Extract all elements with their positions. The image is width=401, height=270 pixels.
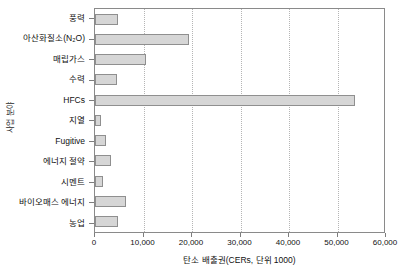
bar-row (95, 70, 384, 90)
category-label: 지열 (0, 110, 90, 130)
bar (95, 14, 118, 25)
bar-series (95, 9, 384, 232)
category-label: HFCs (0, 90, 90, 110)
x-axis-tick (143, 233, 144, 237)
category-label: 매립가스 (0, 49, 90, 69)
bar (95, 216, 118, 227)
bar-row (95, 191, 384, 211)
bar-row (95, 90, 384, 110)
plot-area (94, 8, 385, 233)
bar (95, 135, 106, 146)
bar (95, 196, 126, 207)
x-axis-tick (240, 233, 241, 237)
bar (95, 74, 117, 85)
category-label: 시멘트 (0, 172, 90, 192)
category-label: 에너지 절약 (0, 151, 90, 171)
category-label-list: 풍력아산화질소(N₂O)매립가스수력HFCs지열Fugitive에너지 절약시멘… (0, 8, 90, 233)
x-axis-tick (191, 233, 192, 237)
category-label: 바이오매스 에너지 (0, 192, 90, 212)
bar (95, 54, 146, 65)
x-axis-tick (288, 233, 289, 237)
bar-row (95, 151, 384, 171)
bar-row (95, 110, 384, 130)
x-axis-tick-label: 40,000 (276, 238, 300, 247)
bar (95, 155, 111, 166)
category-label: Fugitive (0, 131, 90, 151)
bar-row (95, 29, 384, 49)
bar-chart: 사업 분야 풍력아산화질소(N₂O)매립가스수력HFCs지열Fugitive에너… (0, 0, 401, 270)
x-axis-tick (337, 233, 338, 237)
category-label: 수력 (0, 69, 90, 89)
bar (95, 34, 189, 45)
category-label: 농업 (0, 213, 90, 233)
category-label: 풍력 (0, 8, 90, 28)
x-axis-tick-label: 60,000 (373, 238, 397, 247)
bar-row (95, 9, 384, 29)
x-axis-tick (385, 233, 386, 237)
category-label: 아산화질소(N₂O) (0, 28, 90, 48)
x-axis-title: 탄소 배출권(CERs, 단위 1000) (94, 253, 385, 265)
bar (95, 95, 355, 106)
x-axis-tick (94, 233, 95, 237)
x-axis-tick-label: 50,000 (324, 238, 348, 247)
bar-row (95, 171, 384, 191)
bar-row (95, 131, 384, 151)
x-axis-tick-label: 0 (92, 238, 96, 247)
bar (95, 176, 103, 187)
x-axis-tick-labels: 010,00020,00030,00040,00050,00060,000 (0, 238, 401, 250)
x-axis-tick-label: 20,000 (179, 238, 203, 247)
bar-row (95, 212, 384, 232)
bar-row (95, 50, 384, 70)
x-axis-tick-label: 30,000 (227, 238, 251, 247)
bar (95, 115, 101, 126)
x-axis-tick-label: 10,000 (130, 238, 154, 247)
